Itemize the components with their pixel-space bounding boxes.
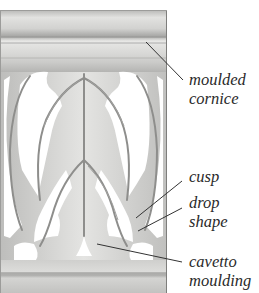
- label-line: cavetto: [189, 252, 251, 271]
- label-drop-shape: drop shape: [189, 193, 228, 231]
- label-moulded-cornice: moulded cornice: [189, 70, 246, 108]
- tracery-figure: moulded cornice cusp drop shape cavetto …: [0, 0, 259, 293]
- label-cusp: cusp: [189, 167, 219, 186]
- label-line: moulded: [189, 70, 246, 89]
- annotations: moulded cornice cusp drop shape cavetto …: [0, 0, 259, 293]
- label-line: drop: [189, 193, 228, 212]
- label-line: cornice: [189, 89, 246, 108]
- label-cavetto-moulding: cavetto moulding: [189, 252, 251, 290]
- label-line: cusp: [189, 167, 219, 186]
- label-line: shape: [189, 212, 228, 231]
- label-line: moulding: [189, 271, 251, 290]
